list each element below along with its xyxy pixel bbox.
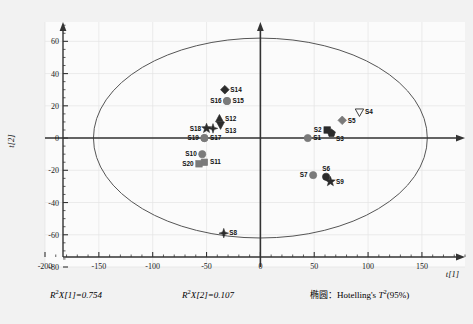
point-label-s15: S15 [233, 97, 245, 104]
y-axis-title: t[2] [6, 134, 16, 147]
point-label-s16: S16 [210, 97, 222, 104]
y-tick-label: 20 [51, 102, 59, 111]
marker-s10 [199, 151, 206, 158]
x-tick-label: 50 [310, 262, 318, 271]
point-label-s6: S6 [322, 165, 330, 172]
marker-s16 [223, 97, 230, 104]
point-label-s20: S20 [182, 160, 194, 167]
y-tick-label: -40 [48, 199, 59, 208]
y-tick-label: -60 [48, 231, 59, 240]
point-label-s7: S7 [300, 171, 308, 178]
x-tick-label: 100 [362, 262, 374, 271]
point-label-s3: S3 [336, 135, 344, 142]
point-label-s12: S12 [225, 115, 237, 122]
ellipse-annotation: 椭圆：Hotelling's T2(95%) [310, 288, 409, 301]
marker-s1 [304, 134, 311, 141]
r2x1-rest: X[1]=0.754 [59, 290, 102, 300]
marker-s20 [196, 161, 202, 167]
point-label-s2: S2 [314, 126, 322, 133]
r2x2-annotation: R2X[2]=0.107 [182, 288, 234, 300]
ellipse-note-chinese: 椭圆： [310, 290, 337, 300]
point-label-s17: S17 [210, 134, 222, 141]
point-label-s14: S14 [230, 86, 242, 93]
score-scatter-plot: -200-150-100-50050100150-80-60-40-200204… [0, 0, 473, 324]
r2x1-annotation: R2X[1]=0.754 [50, 288, 102, 300]
ellipse-note-hotelling: Hotelling's [337, 290, 378, 300]
point-label-s18: S18 [190, 125, 202, 132]
point-label-s5: S5 [348, 117, 356, 124]
marker-s7 [310, 172, 317, 179]
point-label-s1: S1 [313, 134, 321, 141]
point-label-s10: S10 [185, 150, 197, 157]
point-label-s4: S4 [365, 108, 373, 115]
x-tick-label: 150 [416, 262, 428, 271]
marker-s19 [201, 134, 208, 141]
x-tick-label: -150 [92, 262, 107, 271]
y-tick-label: -20 [48, 166, 59, 175]
plot-svg: -200-150-100-50050100150-80-60-40-200204… [0, 0, 473, 324]
point-label-s13: S13 [225, 127, 237, 134]
y-tick-label: 40 [51, 70, 59, 79]
ellipse-note-percent: (95%) [387, 290, 410, 300]
marker-s6 [322, 173, 329, 180]
x-tick-label: 0 [258, 262, 262, 271]
r2x2-rest: X[2]=0.107 [191, 290, 234, 300]
point-label-s11: S11 [210, 158, 221, 165]
point-label-s8: S8 [229, 229, 237, 236]
y-tick-label: 60 [51, 37, 59, 46]
y-tick-label: 0 [55, 134, 59, 143]
x-tick-label: -50 [201, 262, 212, 271]
x-axis-title: t[1] [446, 269, 459, 279]
plot-area-background [45, 22, 465, 267]
point-label-s19: S19 [188, 134, 200, 141]
y-tick-label: -80 [48, 263, 59, 272]
x-tick-label: -100 [145, 262, 160, 271]
point-label-s9: S9 [336, 178, 344, 185]
